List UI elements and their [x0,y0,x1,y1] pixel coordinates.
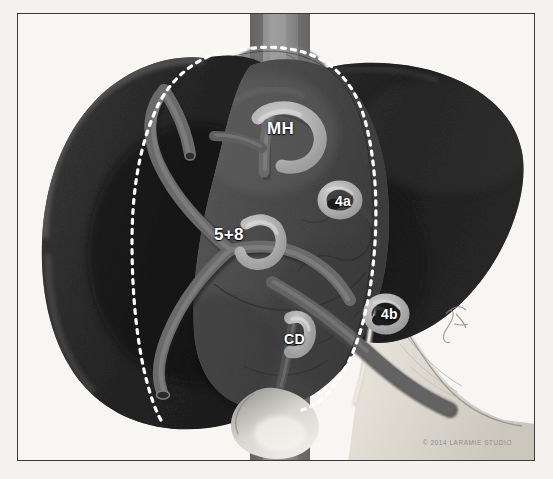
copyright-notice: © 2014 LARAMIE STUDIO [423,439,512,446]
liver-illustration [18,14,534,460]
illustration-canvas: MH 5+8 4a 4b CD © 2014 LARAMIE STUDIO [0,0,553,479]
illustration-frame: MH 5+8 4a 4b CD © 2014 LARAMIE STUDIO [17,13,535,461]
